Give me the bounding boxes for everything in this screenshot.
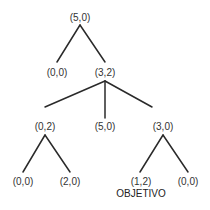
edge-3-0-to-0-0 (163, 135, 188, 172)
tree-node-level2-middle: (5,0) (95, 122, 116, 132)
tree-node-leaf-4: (0,0) (178, 177, 199, 187)
tree-node-level2-left: (0,2) (35, 122, 56, 132)
edge-root-to-0-0 (57, 25, 80, 62)
edge-3-2-to-0-2 (45, 81, 105, 107)
goal-label: OBJETIVO (116, 189, 165, 199)
tree-node-leaf-2: (2,0) (60, 177, 81, 187)
tree-node-level1-right: (3,2) (95, 68, 116, 78)
tree-node-goal: (1,2) (131, 177, 152, 187)
edge-root-to-3-2 (80, 25, 105, 62)
edge-0-2-to-2-0 (45, 135, 70, 172)
tree-node-level1-left: (0,0) (47, 68, 68, 78)
tree-node-root: (5,0) (70, 13, 91, 23)
tree-node-level2-right: (3,0) (153, 122, 174, 132)
edge-0-2-to-0-0 (23, 135, 45, 172)
tree-node-leaf-1: (0,0) (13, 177, 34, 187)
edge-3-2-to-3-0 (105, 81, 152, 107)
edge-3-0-to-1-2 (140, 135, 163, 172)
